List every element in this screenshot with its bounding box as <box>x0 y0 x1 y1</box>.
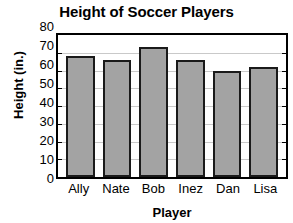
bar-slot <box>62 35 99 177</box>
bar-chart: Height of Soccer Players Height (in.) 80… <box>0 0 293 223</box>
bar-slot <box>172 35 209 177</box>
x-tick-label: Dan <box>209 181 246 196</box>
bar-dan <box>213 71 242 178</box>
bar-series <box>58 35 286 177</box>
x-axis-tick-labels: AllyNateBobInezDanLisa <box>56 181 288 196</box>
bar-nate <box>103 60 132 177</box>
x-tick-label: Ally <box>60 181 97 196</box>
bar-slot <box>245 35 282 177</box>
bar-ally <box>66 56 95 177</box>
y-tick-label: 30 <box>20 116 54 128</box>
x-tick-label: Nate <box>97 181 134 196</box>
y-tick-label: 60 <box>20 59 54 71</box>
plot-area <box>56 33 288 179</box>
y-tick-label: 0 <box>20 173 54 185</box>
x-tick-label: Inez <box>172 181 209 196</box>
bar-slot <box>99 35 136 177</box>
y-tick-label: 10 <box>20 154 54 166</box>
y-tick-label: 20 <box>20 135 54 147</box>
y-axis-tick-labels: 80706050403020100 <box>20 27 54 179</box>
bar-slot <box>209 35 246 177</box>
y-tick-label: 70 <box>20 40 54 52</box>
x-tick-label: Lisa <box>247 181 284 196</box>
bar-bob <box>139 47 168 177</box>
bar-lisa <box>249 67 278 177</box>
y-tick-label: 80 <box>20 21 54 33</box>
y-tick-label: 50 <box>20 78 54 90</box>
x-tick-label: Bob <box>135 181 172 196</box>
x-axis-title: Player <box>56 205 288 220</box>
bar-slot <box>135 35 172 177</box>
y-tick-label: 40 <box>20 97 54 109</box>
bar-inez <box>176 60 205 177</box>
